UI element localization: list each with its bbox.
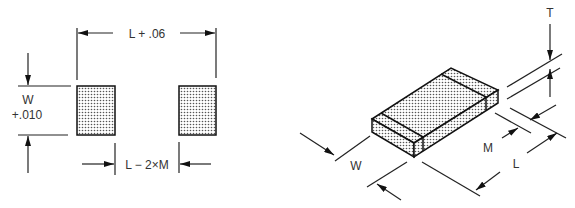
thickness-label: T bbox=[546, 6, 554, 20]
diagram-canvas: L + .06 W +.010 L − 2×M bbox=[0, 0, 575, 208]
component-length-label: L bbox=[513, 157, 520, 171]
terminal-dimension bbox=[495, 105, 566, 138]
footprint-view: L + .06 W +.010 L − 2×M bbox=[12, 27, 216, 175]
terminal-label: M bbox=[483, 141, 493, 155]
width-tolerance-label: +.010 bbox=[12, 108, 43, 122]
gap-label: L − 2×M bbox=[125, 158, 169, 172]
width-label: W bbox=[22, 93, 34, 107]
right-pad bbox=[179, 86, 216, 135]
component-width-label: W bbox=[350, 159, 362, 173]
overall-length-label: L + .06 bbox=[129, 27, 166, 41]
thickness-dimension bbox=[507, 24, 562, 99]
component-isometric-view bbox=[372, 68, 498, 157]
left-pad bbox=[77, 86, 115, 135]
